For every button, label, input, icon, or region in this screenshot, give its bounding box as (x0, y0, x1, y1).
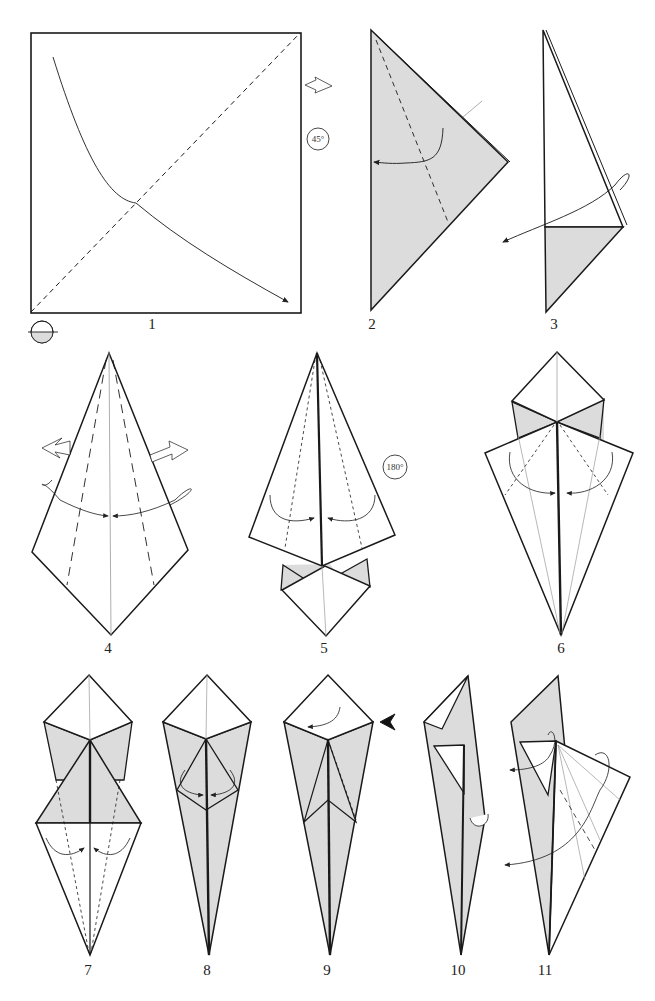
step-label-2: 2 (368, 316, 376, 333)
step-6-diagram (485, 352, 633, 635)
step-10-diagram (424, 676, 488, 955)
step-label-8: 8 (203, 962, 211, 979)
step-9-diagram (284, 675, 395, 955)
step-11-diagram (505, 676, 630, 955)
step-label-1: 1 (148, 316, 156, 333)
step-label-10: 10 (451, 962, 466, 979)
step-label-11: 11 (538, 962, 552, 979)
step-label-9: 9 (323, 962, 331, 979)
step-label-5: 5 (320, 640, 328, 657)
step-5-diagram (249, 353, 407, 636)
step-7-diagram (36, 675, 141, 955)
step-3-diagram (503, 30, 629, 312)
rotate-180-label: 180° (386, 462, 403, 472)
step-4-diagram (32, 353, 191, 635)
origami-diagram (0, 0, 655, 1001)
turn-over-icon (305, 77, 332, 93)
push-arrow-icon (380, 714, 395, 730)
step-2-diagram (371, 30, 510, 310)
step-label-4: 4 (104, 640, 112, 657)
step-label-3: 3 (550, 316, 558, 333)
step-label-6: 6 (557, 640, 565, 657)
rotate-45-label: 45° (312, 134, 325, 144)
step-label-7: 7 (84, 962, 92, 979)
step-1-diagram (28, 33, 332, 343)
step-8-diagram (163, 675, 251, 955)
